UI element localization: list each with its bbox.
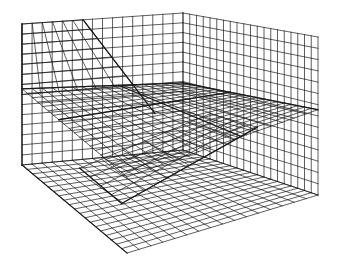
grid-line <box>127 195 318 253</box>
grid-line <box>117 191 305 245</box>
wireframe-box-diagram <box>0 0 338 272</box>
grid-line <box>111 124 245 195</box>
grid-line <box>32 23 40 93</box>
grid-line <box>64 168 237 200</box>
wireframe-svg <box>0 0 338 272</box>
grid-line <box>106 104 291 159</box>
floor-grid <box>22 150 318 253</box>
grid-line <box>75 96 251 133</box>
grid-line <box>27 152 190 169</box>
grid-line <box>101 103 285 155</box>
grid-line <box>101 184 285 231</box>
